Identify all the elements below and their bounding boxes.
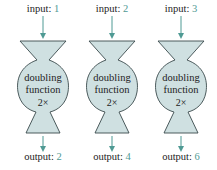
down-arrow-icon	[40, 33, 46, 39]
function-machine-3: input: 3 doubling function 2× output: 6	[146, 0, 216, 170]
function-name: doubling function	[8, 72, 78, 96]
function-machine-1: input: 1 doubling function 2× output: 2	[8, 0, 78, 170]
function-name: doubling function	[77, 72, 147, 96]
output-value: 4	[126, 151, 131, 162]
output-label: output: 2	[24, 151, 62, 162]
output-value: 2	[57, 151, 62, 162]
function-operation: 2×	[8, 97, 78, 109]
function-operation: 2×	[146, 97, 216, 109]
output-label: output: 6	[162, 151, 200, 162]
function-name: doubling function	[146, 72, 216, 96]
down-arrow-icon	[109, 33, 115, 39]
output-value: 6	[195, 151, 200, 162]
output-label: output: 4	[93, 151, 131, 162]
function-operation: 2×	[77, 97, 147, 109]
down-arrow-icon	[178, 33, 184, 39]
function-machine-2: input: 2 doubling function 2× output: 4	[77, 0, 147, 170]
